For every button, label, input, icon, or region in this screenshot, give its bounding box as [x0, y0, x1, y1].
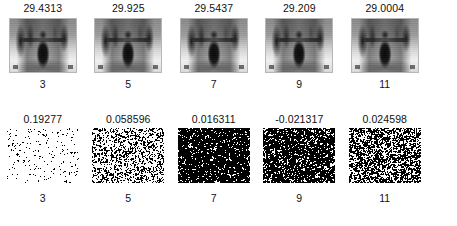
noise-content: [92, 128, 164, 183]
photo-detail: [274, 38, 324, 42]
denoised-image-panel: [94, 18, 162, 73]
photo-corner-mark: [184, 65, 189, 69]
photo-detail: [103, 38, 153, 42]
noise-content: [178, 128, 250, 183]
image-cell: 29.0004 11: [342, 0, 428, 105]
photo-corner-mark: [355, 65, 360, 69]
index-label: 11: [379, 192, 390, 205]
photo-corner-mark: [324, 65, 329, 69]
residual-noise-panel: [178, 128, 250, 183]
noise-cell: 0.024598 11: [342, 105, 428, 226]
residual-value: 0.19277: [23, 113, 62, 126]
image-cell: 29.209 9: [257, 0, 343, 105]
noise-cell: -0.021317 9: [257, 105, 343, 226]
psnr-value: 29.0004: [365, 2, 404, 15]
photo-corner-mark: [153, 65, 158, 69]
denoised-image-panel: [180, 18, 248, 73]
index-label: 11: [379, 78, 390, 91]
residual-noise-panel: [349, 128, 421, 183]
residual-value: 0.058596: [106, 113, 151, 126]
noise-content: [263, 128, 335, 183]
index-label: 5: [125, 192, 131, 205]
noise-content: [7, 128, 79, 183]
psnr-value: 29.925: [112, 2, 145, 15]
photo-corner-mark: [68, 65, 73, 69]
index-label: 3: [40, 78, 46, 91]
photo-content: [352, 19, 418, 72]
residual-value: -0.021317: [275, 113, 323, 126]
noise-cell: 0.016311 7: [171, 105, 257, 226]
index-label: 7: [211, 78, 217, 91]
index-label: 3: [40, 192, 46, 205]
index-label: 7: [211, 192, 217, 205]
index-label: 9: [296, 192, 302, 205]
psnr-value: 29.4313: [23, 2, 62, 15]
photo-content: [181, 19, 247, 72]
residual-noise-row: 0.19277 3 0.058596 5 0.016311 7 -0.02131…: [0, 105, 457, 226]
photo-content: [266, 19, 332, 72]
photo-content: [95, 19, 161, 72]
denoised-image-panel: [9, 18, 77, 73]
residual-value: 0.016311: [192, 113, 236, 126]
index-label: 5: [125, 78, 131, 91]
psnr-value: 29.209: [283, 2, 316, 15]
photo-corner-mark: [269, 65, 274, 69]
photo-corner-mark: [13, 65, 18, 69]
noise-cell: 0.058596 5: [86, 105, 172, 226]
residual-noise-panel: [263, 128, 335, 183]
photo-detail: [189, 38, 239, 42]
photo-content: [10, 19, 76, 72]
denoised-image-panel: [351, 18, 419, 73]
photo-detail: [360, 38, 410, 42]
photo-corner-mark: [239, 65, 244, 69]
psnr-value: 29.5437: [194, 2, 233, 15]
index-label: 9: [296, 78, 302, 91]
denoised-images-row: 29.4313 3 29.925 5 29.5437: [0, 0, 457, 105]
image-cell: 29.4313 3: [0, 0, 86, 105]
photo-corner-mark: [98, 65, 103, 69]
noise-content: [349, 128, 421, 183]
denoised-image-panel: [265, 18, 333, 73]
noise-cell: 0.19277 3: [0, 105, 86, 226]
photo-detail: [18, 38, 68, 42]
comparison-figure: 29.4313 3 29.925 5 29.5437: [0, 0, 457, 226]
residual-value: 0.024598: [362, 113, 407, 126]
photo-corner-mark: [410, 65, 415, 69]
image-cell: 29.925 5: [86, 0, 172, 105]
image-cell: 29.5437 7: [171, 0, 257, 105]
residual-noise-panel: [92, 128, 164, 183]
residual-noise-panel: [7, 128, 79, 183]
